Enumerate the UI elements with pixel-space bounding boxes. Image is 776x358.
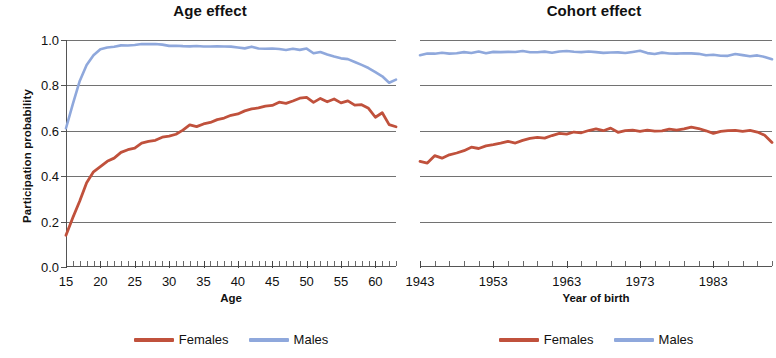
legend-label-males: Males <box>659 332 694 347</box>
series-line-males <box>420 51 772 60</box>
legend-swatch-females-icon <box>134 338 174 342</box>
legend-swatch-males-icon <box>614 338 654 342</box>
page-title-age-effect: Age effect <box>60 2 360 19</box>
series-layer <box>420 40 772 267</box>
y-axis-tick-label: 0.0 <box>41 260 59 275</box>
x-axis-tick-label: 1983 <box>699 274 728 289</box>
x-axis-tick-label: 1953 <box>479 274 508 289</box>
y-axis-tick-mark <box>61 267 66 268</box>
y-axis-tick-label: 0.8 <box>41 78 59 93</box>
x-axis-tick-label: 30 <box>162 274 176 289</box>
panel-cohort-effect: Cohort effect 19431953196319731983 Year … <box>404 0 776 358</box>
legend-left: Females Males <box>66 332 396 347</box>
y-axis-title-left: Participation probability <box>21 41 33 271</box>
x-axis-title-left: Age <box>66 292 396 304</box>
x-axis-tick-label: 50 <box>299 274 313 289</box>
legend-item-males-left: Males <box>249 332 329 347</box>
x-axis-tick-label: 60 <box>368 274 382 289</box>
x-axis-tick-label: 1963 <box>552 274 581 289</box>
x-axis-tick-label: 55 <box>334 274 348 289</box>
x-axis-tick-label: 1943 <box>406 274 435 289</box>
panel-age-effect: Age effect Participation probability 0.0… <box>0 0 404 358</box>
plot-area-cohort-effect: 19431953196319731983 <box>420 40 772 267</box>
y-axis-tick-label: 0.2 <box>41 214 59 229</box>
x-axis-tick-mark <box>396 261 397 266</box>
x-axis-tick-label: 25 <box>128 274 142 289</box>
x-axis-tick-label: 40 <box>231 274 245 289</box>
legend-label-females: Females <box>544 332 594 347</box>
legend-item-females-right: Females <box>499 332 594 347</box>
x-axis-tick-label: 35 <box>196 274 210 289</box>
series-line-females <box>66 97 396 235</box>
y-axis-tick-label: 0.4 <box>41 169 59 184</box>
x-axis-tick-mark <box>772 261 773 266</box>
legend-item-males-right: Males <box>614 332 694 347</box>
page-title-cohort-effect: Cohort effect <box>444 2 744 19</box>
legend-label-males: Males <box>294 332 329 347</box>
x-axis-tick-label: 1973 <box>626 274 655 289</box>
x-axis-tick-label: 45 <box>265 274 279 289</box>
two-panel-line-chart-figure: Age effect Participation probability 0.0… <box>0 0 776 358</box>
legend-swatch-females-icon <box>499 338 539 342</box>
y-axis-tick-label: 1.0 <box>41 33 59 48</box>
legend-swatch-males-icon <box>249 338 289 342</box>
x-axis-title-right: Year of birth <box>420 292 772 304</box>
x-axis-tick-label: 20 <box>93 274 107 289</box>
series-layer <box>66 40 396 267</box>
plot-area-age-effect: 0.00.20.40.60.81.015202530354045505560 <box>66 40 396 267</box>
legend-label-females: Females <box>179 332 229 347</box>
legend-right: Females Males <box>420 332 772 347</box>
x-axis-tick-label: 15 <box>59 274 73 289</box>
series-line-females <box>420 127 772 163</box>
y-axis-tick-label: 0.6 <box>41 123 59 138</box>
legend-item-females-left: Females <box>134 332 229 347</box>
